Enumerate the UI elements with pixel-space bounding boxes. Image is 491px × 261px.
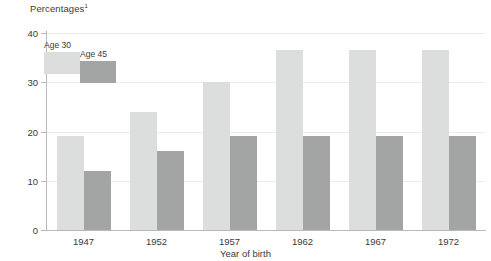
chart-title-text: Percentages	[30, 3, 84, 14]
bar-age-30-1967	[349, 50, 376, 230]
y-axis-tick-mark	[41, 230, 46, 231]
x-axis-tick-label: 1957	[219, 236, 240, 247]
gridline	[47, 33, 485, 34]
y-axis-tick-labels: 010203040	[0, 0, 38, 261]
bar-group	[203, 33, 257, 230]
bar-age-45-1967	[376, 136, 403, 230]
y-axis-tick-mark	[41, 181, 46, 182]
y-axis-tick-label: 0	[33, 225, 38, 236]
y-axis-tick-mark	[41, 132, 46, 133]
x-axis-line	[46, 230, 486, 231]
bar-age-45-1947	[84, 171, 111, 230]
chart-title: Percentages1	[30, 3, 88, 14]
gridline	[47, 132, 485, 133]
bar-age-45-1962	[303, 136, 330, 230]
legend-swatch-age-45	[80, 61, 116, 83]
chart-title-footnote-marker: 1	[84, 3, 87, 9]
x-axis-tick-label: 1962	[292, 236, 313, 247]
y-axis-tick-label: 40	[27, 28, 38, 39]
bar-group	[422, 33, 476, 230]
y-axis-tick-mark	[41, 82, 46, 83]
x-axis-tick-label: 1947	[73, 236, 94, 247]
bar-group	[349, 33, 403, 230]
legend-label-age-30: Age 30	[44, 40, 71, 50]
bar-age-30-1957	[203, 82, 230, 230]
y-axis-tick-label: 10	[27, 175, 38, 186]
legend-swatch-age-30	[44, 52, 80, 74]
x-axis-tick-label: 1952	[146, 236, 167, 247]
bar-age-30-1962	[276, 50, 303, 230]
bar-age-45-1952	[157, 151, 184, 230]
x-axis-tick-label: 1967	[365, 236, 386, 247]
bar-age-30-1972	[422, 50, 449, 230]
gridline	[47, 181, 485, 182]
bar-group	[276, 33, 330, 230]
x-axis-title: Year of birth	[0, 248, 491, 259]
bar-age-45-1957	[230, 136, 257, 230]
y-axis-tick-label: 20	[27, 126, 38, 137]
y-axis-tick-label: 30	[27, 77, 38, 88]
chart-legend: Age 30 Age 45	[38, 38, 158, 78]
bar-age-30-1952	[130, 112, 157, 230]
bar-age-30-1947	[57, 136, 84, 230]
x-axis-tick-label: 1972	[438, 236, 459, 247]
bar-age-45-1972	[449, 136, 476, 230]
bar-chart-figure: Percentages1 010203040 19471952195719621…	[0, 0, 491, 261]
legend-label-age-45: Age 45	[80, 49, 107, 59]
y-axis-tick-mark	[41, 33, 46, 34]
